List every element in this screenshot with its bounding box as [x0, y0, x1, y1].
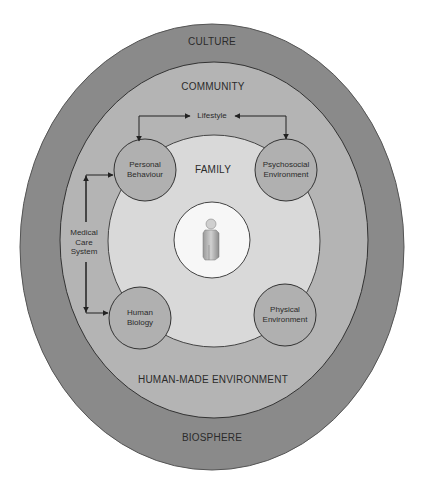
physical-line1: Physical [263, 305, 308, 315]
human-made-environment-label: HUMAN-MADE ENVIRONMENT [138, 374, 288, 386]
personal-behaviour-line1: Personal [127, 160, 163, 170]
psychosocial-environment-label: Psychosocial Environment [263, 160, 310, 179]
medical-care-line2: Care [70, 237, 98, 247]
lifestyle-label: Lifestyle [195, 111, 228, 121]
personal-behaviour-label: Personal Behaviour [127, 160, 163, 179]
psychosocial-line1: Psychosocial [263, 160, 310, 170]
human-biology-line1: Human [127, 308, 153, 318]
biosphere-label: BIOSPHERE [182, 432, 242, 444]
psychosocial-line2: Environment [263, 170, 310, 180]
culture-label: CULTURE [188, 36, 236, 48]
family-label: FAMILY [195, 164, 231, 176]
human-biology-label: Human Biology [127, 308, 153, 327]
community-label: COMMUNITY [181, 81, 244, 93]
physical-line2: Environment [263, 315, 308, 325]
medical-care-system-label: Medical Care System [70, 228, 98, 257]
human-biology-line2: Biology [127, 318, 153, 328]
physical-environment-label: Physical Environment [263, 305, 308, 324]
mandala-diagram [0, 0, 422, 480]
personal-behaviour-line2: Behaviour [127, 170, 163, 180]
medical-care-line3: System [70, 247, 98, 257]
medical-care-line1: Medical [70, 228, 98, 238]
